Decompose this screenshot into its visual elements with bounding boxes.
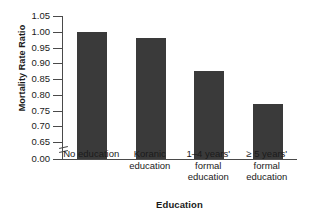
bar (194, 71, 224, 159)
y-axis-tick-label: 0.65 (32, 136, 51, 147)
y-axis-tick: 0.95 (53, 48, 62, 49)
y-axis-tick-label: 0.75 (32, 105, 51, 116)
plot-area: 0.000.650.700.750.800.850.900.951.001.05 (62, 16, 297, 160)
y-axis-tick: 0.65 (53, 142, 62, 143)
y-axis-tick-label: 1.05 (32, 10, 51, 21)
y-axis-tick: 0.90 (53, 63, 62, 64)
y-axis-title: Mortality Rate Ratio (14, 0, 30, 148)
y-axis-tick: 1.00 (53, 32, 62, 33)
x-axis-tick-label: Koraniceducation (121, 148, 180, 171)
x-axis-tick-label: No education (62, 148, 121, 160)
y-axis-tick: 0.70 (53, 126, 62, 127)
bar (77, 32, 107, 159)
x-axis-tick-label: 1–4 years'formaleducation (179, 148, 238, 183)
y-axis-tick-label: 0.85 (32, 73, 51, 84)
y-axis-tick: 0.00 (53, 159, 62, 160)
y-axis-tick-label: 1.00 (32, 26, 51, 37)
y-axis-tick-label: 0.00 (32, 153, 51, 164)
bar (136, 38, 166, 159)
y-axis-tick-label: 0.80 (32, 89, 51, 100)
y-axis-tick: 0.85 (53, 79, 62, 80)
bar-chart-figure: Mortality Rate Ratio 0.000.650.700.750.8… (0, 0, 320, 224)
y-axis-tick-label: 0.70 (32, 120, 51, 131)
x-axis-tick-label: ≥ 5 years'formaleducation (238, 148, 297, 183)
y-axis-tick: 0.75 (53, 111, 62, 112)
y-axis-tick-label: 0.95 (32, 42, 51, 53)
x-axis-title: Education (62, 199, 297, 210)
y-axis-tick: 1.05 (53, 16, 62, 17)
y-axis-tick: 0.80 (53, 95, 62, 96)
y-axis-tick-label: 0.90 (32, 57, 51, 68)
